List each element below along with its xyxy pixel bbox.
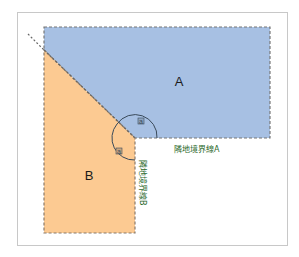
- boundary-b-label: 隣地境界線B: [138, 160, 148, 206]
- boundary-a-label: 隣地境界線A: [174, 144, 220, 154]
- angle-label-lower: a: [117, 148, 121, 155]
- angle-label-upper: a: [139, 118, 143, 125]
- region-a-label: A: [175, 74, 184, 89]
- site-boundary-diagram: a a A B 隣地境界線A 隣地境界線B: [0, 0, 299, 257]
- region-b-label: B: [85, 168, 94, 183]
